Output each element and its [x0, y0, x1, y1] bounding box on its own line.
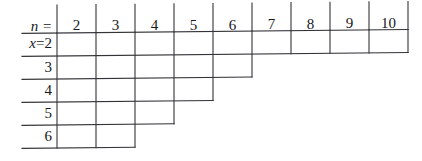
- column-header-9: 9: [330, 16, 369, 31]
- row-header-x2-eq: =: [36, 35, 44, 51]
- column-header-2: 2: [57, 18, 96, 33]
- row-header-x5: 5: [0, 106, 52, 121]
- corner-label-n: n =: [0, 19, 52, 34]
- row-header-x2-value: 2: [45, 35, 53, 51]
- row-header-x3: 3: [0, 60, 52, 75]
- column-header-6: 6: [213, 18, 252, 33]
- column-header-7: 7: [252, 17, 291, 32]
- row-header-x4: 4: [0, 83, 52, 98]
- row-header-x2: x=2: [0, 36, 52, 51]
- row-header-x6: 6: [0, 129, 52, 144]
- column-header-3: 3: [96, 18, 135, 33]
- staircase-table-figure: 2 3 4 5 6 7 8 9 10 n = x=2 3 4 5 6: [0, 0, 422, 161]
- column-header-10: 10: [369, 16, 408, 31]
- column-header-5: 5: [174, 18, 213, 33]
- column-header-4: 4: [135, 18, 174, 33]
- column-header-8: 8: [291, 17, 330, 32]
